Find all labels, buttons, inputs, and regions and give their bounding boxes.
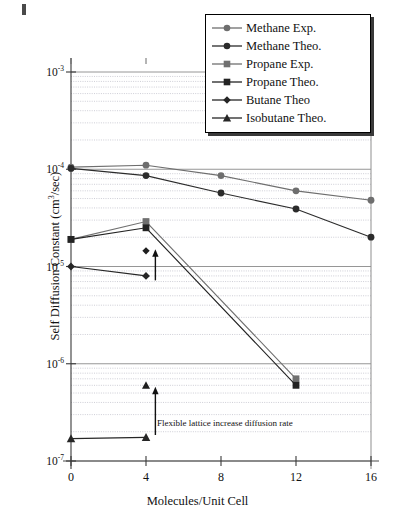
series-methane-exp	[68, 162, 375, 204]
triangle-marker-icon	[210, 109, 244, 127]
legend-label: Isobutane Theo.	[244, 112, 326, 125]
legend-label: Propane Theo.	[244, 76, 319, 89]
y-axis-title-pre: Self Diffusion Constant (cm	[48, 199, 62, 340]
legend-item-propane-exp: Propane Exp.	[210, 55, 364, 73]
y-tick-label: 10-7	[20, 454, 64, 467]
y-tick-exponent: -7	[58, 453, 64, 462]
y-axis-title: Self Diffusion Constant (cm3/sec)	[47, 106, 63, 406]
x-tick-label: 4	[131, 471, 161, 483]
legend-label: Methane Exp.	[244, 22, 316, 35]
legend-item-butane-theo: Butane Theo	[210, 91, 364, 109]
series-butane-theo	[67, 263, 150, 280]
annotation-arrows	[152, 249, 158, 435]
x-axis-title: Molecules/Unit Cell	[0, 494, 395, 509]
y-tick-base: 10	[46, 455, 58, 467]
x-tick-label: 12	[281, 471, 311, 483]
x-tick-label: 8	[206, 471, 236, 483]
square-marker-icon	[210, 55, 244, 73]
legend-label: Methane Theo.	[244, 40, 321, 53]
circle-marker-icon	[210, 19, 244, 37]
legend-item-methane-theo: Methane Theo.	[210, 37, 364, 55]
circle-marker-icon	[210, 37, 244, 55]
legend-item-isobutane-theo: Isobutane Theo.	[210, 109, 364, 127]
series-propane-exp	[68, 218, 300, 382]
legend-label: Butane Theo	[244, 94, 310, 107]
figure-container: 10-310-410-510-610-7 0481216 Molecules/U…	[0, 0, 395, 527]
isolated-data-points	[142, 247, 150, 389]
y-tick-base: 10	[46, 66, 58, 78]
legend-item-methane-exp: Methane Exp.	[210, 19, 364, 37]
y-tick-exponent: -3	[58, 64, 64, 73]
annotation-flexible-lattice: Flexible lattice increase diffusion rate	[157, 418, 293, 428]
y-axis-title-post: /sec)	[48, 172, 62, 196]
legend-label: Propane Exp.	[244, 58, 313, 71]
x-tick-label: 0	[56, 471, 86, 483]
y-tick-label: 10-3	[20, 65, 64, 78]
y-axis-title-sup: 3	[47, 195, 56, 199]
chart-legend: Methane Exp.Methane Theo.Propane Exp.Pro…	[205, 14, 371, 133]
x-tick-label: 16	[356, 471, 386, 483]
series-isobutane-theo	[67, 433, 151, 442]
legend-item-propane-theo: Propane Theo.	[210, 73, 364, 91]
square-marker-icon	[210, 73, 244, 91]
diamond-marker-icon	[210, 91, 244, 109]
